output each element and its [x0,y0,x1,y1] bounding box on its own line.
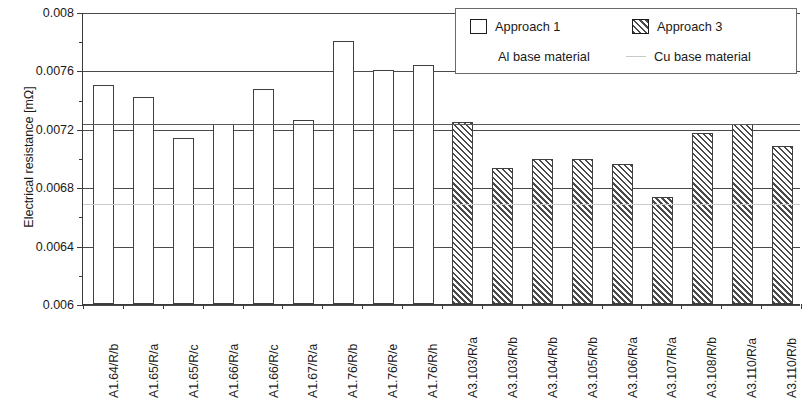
bar-chart: Electrical resistance [mΩ] 0.0080.00760.… [0,0,807,403]
y-axis-tick-labels: 0.0080.00760.00720.00680.00640.006 [12,0,74,403]
x-tick-label: A1.66/R/a [227,344,241,398]
bar [253,89,274,304]
chart-legend: Approach 1 Approach 3 Al base material C… [455,8,797,74]
legend-item-approach-3: Approach 3 [632,12,722,40]
x-tick-label: A3.110/R/a [745,338,759,398]
bar [452,122,473,305]
x-axis-tick [801,304,802,309]
reference-line-al [83,124,800,125]
reference-line-cu [83,204,800,205]
gridline [83,130,800,131]
y-tick-label: 0.008 [16,7,74,19]
bar [133,97,154,304]
bar [652,197,673,304]
bar [213,124,234,304]
x-tick-label: A3.105/R/b [586,337,600,398]
y-axis-minor-tick [79,217,83,218]
y-tick-label: 0.0068 [16,182,74,194]
y-tick-label: 0.0076 [16,65,74,77]
legend-label-al-base: Al base material [498,49,590,64]
y-axis-minor-tick [79,42,83,43]
bar [572,159,593,304]
x-tick-label: A1.76/R/e [386,344,400,398]
bar [93,85,114,304]
x-tick-label: A3.107/R/a [665,337,679,398]
legend-item-al-base: Al base material [470,42,590,70]
x-tick-label: A3.110/R/b [785,338,799,398]
bar [612,164,633,304]
y-tick-label: 0.0072 [16,124,74,136]
x-tick-label: A1.64/R/b [107,344,121,398]
bar [173,138,194,304]
y-tick-label: 0.006 [16,299,74,311]
y-axis-minor-tick [79,276,83,277]
y-axis-minor-tick [79,101,83,102]
y-axis-minor-tick [79,159,83,160]
legend-label-cu-base: Cu base material [654,49,751,64]
bar [373,70,394,304]
bar [413,65,434,304]
x-tick-label: A1.76/R/b [346,344,360,398]
legend-item-cu-base: Cu base material [626,42,751,70]
hatched-box-swatch-icon [632,19,649,34]
bar [692,133,713,304]
legend-label-approach-3: Approach 3 [657,19,722,34]
x-tick-label: A1.67/R/a [306,344,320,398]
x-tick-label: A1.65/R/a [147,344,161,398]
y-tick-label: 0.0064 [16,241,74,253]
legend-item-approach-1: Approach 1 [470,12,560,40]
x-tick-label: A3.106/R/a [626,337,640,398]
bar [732,124,753,304]
x-tick-label: A3.104/R/b [546,337,560,398]
x-tick-label: A1.65/R/c [187,344,201,398]
x-tick-label: A3.103/R/b [506,337,520,398]
bar [772,146,793,304]
x-tick-label: A1.66/R/c [267,344,281,398]
x-tick-label: A3.108/R/b [705,337,719,398]
legend-label-approach-1: Approach 1 [495,19,560,34]
bar [492,168,513,304]
x-tick-label: A1.76/R/h [426,344,440,398]
open-box-swatch-icon [470,19,487,34]
bar [293,120,314,304]
light-line-swatch-icon [626,56,646,57]
bar [333,41,354,304]
x-axis-tick-labels: A1.64/R/bA1.65/R/aA1.65/R/cA1.66/R/aA1.6… [82,308,800,403]
bar [532,159,553,304]
x-tick-label: A3.103/R/a [466,337,480,398]
y-axis-tick [77,13,83,14]
